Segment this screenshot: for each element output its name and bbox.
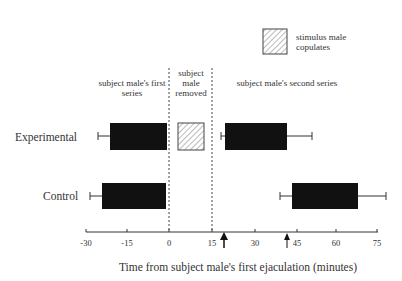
experimental-stimulus-bar [178,123,204,150]
arrow-up-icon [284,233,290,248]
legend-hatched-swatch [263,29,287,54]
tick-label: 30 [251,238,260,248]
phase3-label: subject male's second series [237,78,338,88]
chart: stimulus male copulates subject male's f… [0,0,402,281]
arrow-up-icon [220,232,228,248]
x-axis-title: Time from subject male's first ejaculati… [119,261,357,274]
phase-labels: subject male's first series subject male… [98,68,337,98]
tick-label: 45 [293,238,302,248]
row-label-control: Control [43,190,78,202]
experimental-first-series-bar [110,123,167,150]
phase2-label-line3: removed [175,88,207,98]
legend: stimulus male copulates [263,29,346,54]
phase1-label-line1: subject male's first [98,78,166,88]
phase1-label-line2: series [122,88,143,98]
tick-label: 15 [208,238,217,248]
experimental-second-series-bar [225,123,287,150]
control-row [90,183,386,209]
row-label-experimental: Experimental [15,131,77,144]
tick-label: 75 [373,238,382,248]
control-second-series-bar [292,183,358,209]
legend-label-line2: copulates [296,42,330,52]
x-axis: -30 -15 0 15 30 45 60 75 [80,229,381,248]
tick-label: -15 [121,238,132,248]
phase2-label-line1: subject [178,68,204,78]
tick-label: 60 [332,238,341,248]
experimental-row [98,123,312,150]
tick-label: -30 [80,238,91,248]
phase2-label-line2: male [182,78,200,88]
tick-label: 0 [167,238,171,248]
control-first-series-bar [102,183,166,209]
legend-label-line1: stimulus male [296,32,346,42]
